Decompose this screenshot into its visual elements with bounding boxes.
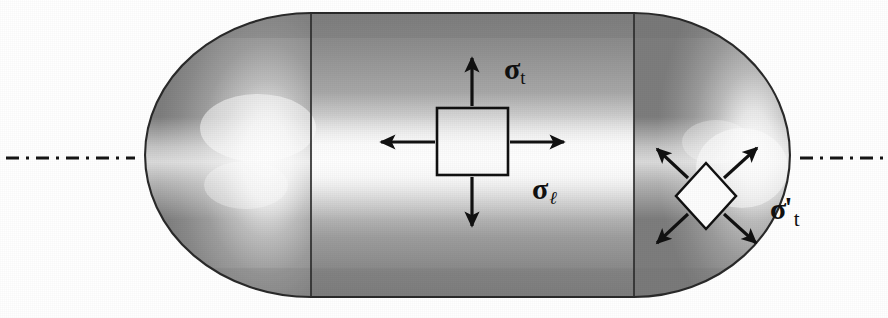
sigma-subscript: t [794,207,800,231]
sigma-subscript: t [520,67,525,88]
label-hoop-stress: σt [504,52,526,86]
vessel-diagram-canvas [0,0,888,318]
label-head-stress: σ't [770,192,801,226]
stress-element-square [437,108,508,175]
prime-glyph: ' [784,190,792,223]
bottom-edge-shade [140,268,800,310]
left-hotspot [200,94,316,162]
left-hotspot-lower [204,161,288,209]
sigma-subscript: ℓ [549,188,557,208]
pressure-vessel-figure: σt σℓ σ't [0,0,888,318]
label-longitudinal-stress: σℓ [532,172,556,206]
sigma-glyph: σ [532,172,548,205]
right-hotspot-upper [682,120,750,164]
sigma-glyph: σ [504,52,520,85]
